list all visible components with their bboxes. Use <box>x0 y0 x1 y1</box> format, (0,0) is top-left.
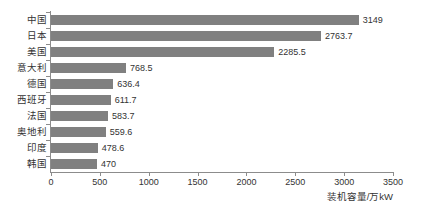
bar-value-label: 470 <box>101 157 116 171</box>
x-axis-tick-label: 2000 <box>236 176 256 188</box>
bar-row: 470 <box>51 156 393 172</box>
bar-value-label: 478.6 <box>102 141 125 155</box>
x-axis-tick-label: 0 <box>48 176 53 188</box>
y-axis-tick <box>46 12 50 13</box>
category-label: 美国 <box>0 44 47 60</box>
category-label: 印度 <box>0 140 47 156</box>
y-axis-tick <box>46 44 50 45</box>
bar-row: 636.4 <box>51 76 393 92</box>
bar[interactable] <box>51 127 106 137</box>
x-axis-tick-label: 1500 <box>188 176 208 188</box>
bar-value-label: 636.4 <box>117 77 140 91</box>
x-axis-line <box>50 172 394 173</box>
bar[interactable] <box>51 159 97 169</box>
y-axis-tick <box>46 76 50 77</box>
bar-row: 478.6 <box>51 140 393 156</box>
category-label: 德国 <box>0 76 47 92</box>
bar-row: 2763.7 <box>51 28 393 44</box>
x-axis-title: 装机容量/万kW <box>327 190 393 203</box>
x-axis-tick-label: 3000 <box>334 176 354 188</box>
y-axis-tick <box>46 108 50 109</box>
bar-row: 768.5 <box>51 60 393 76</box>
bar[interactable] <box>51 47 274 57</box>
bar[interactable] <box>51 63 126 73</box>
bar-value-label: 3149 <box>363 13 383 27</box>
category-label: 奥地利 <box>0 124 47 140</box>
bar[interactable] <box>51 31 321 41</box>
y-axis-tick <box>46 60 50 61</box>
bar[interactable] <box>51 15 359 25</box>
bar-row: 559.6 <box>51 124 393 140</box>
y-axis-tick <box>46 124 50 125</box>
bar-value-label: 768.5 <box>130 61 153 75</box>
x-axis-tick-label: 500 <box>92 176 107 188</box>
category-label: 西班牙 <box>0 92 47 108</box>
bar[interactable] <box>51 95 111 105</box>
bar-row: 611.7 <box>51 92 393 108</box>
category-label: 意大利 <box>0 60 47 76</box>
bar-chart: 中国日本美国意大利德国西班牙法国奥地利印度韩国 31492763.72285.5… <box>0 0 421 213</box>
y-axis-tick <box>46 92 50 93</box>
category-label: 中国 <box>0 12 47 28</box>
x-axis-tick-label: 2500 <box>285 176 305 188</box>
category-axis-labels: 中国日本美国意大利德国西班牙法国奥地利印度韩国 <box>0 12 47 172</box>
bar-value-label: 2285.5 <box>278 45 306 59</box>
bar-row: 583.7 <box>51 108 393 124</box>
y-axis-tick <box>46 28 50 29</box>
bar-row: 3149 <box>51 12 393 28</box>
x-axis-tick-label: 3500 <box>383 176 403 188</box>
x-axis-tick-label: 1000 <box>139 176 159 188</box>
bar-value-label: 2763.7 <box>325 29 353 43</box>
bar[interactable] <box>51 111 108 121</box>
bar-row: 2285.5 <box>51 44 393 60</box>
bar-value-label: 559.6 <box>110 125 133 139</box>
bar[interactable] <box>51 79 113 89</box>
category-label: 韩国 <box>0 156 47 172</box>
bar-value-label: 611.7 <box>115 93 137 107</box>
category-label: 日本 <box>0 28 47 44</box>
y-axis-tick <box>46 156 50 157</box>
plot-area: 31492763.72285.5768.5636.4611.7583.7559.… <box>51 12 393 172</box>
bar-value-label: 583.7 <box>112 109 135 123</box>
bar[interactable] <box>51 143 98 153</box>
category-label: 法国 <box>0 108 47 124</box>
y-axis-tick <box>46 140 50 141</box>
